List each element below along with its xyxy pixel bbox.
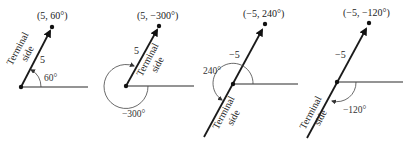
panel-4: (−5, −120°) −5 −120° Terminal side <box>297 7 403 138</box>
length-label: 5 <box>40 54 45 65</box>
point-label: (−5, −120°) <box>343 7 390 19</box>
panel-2: (5, −300°) 5 −300° Terminal side <box>104 10 194 119</box>
point-label: (5, 60°) <box>37 10 68 22</box>
length-label: 5 <box>134 45 139 56</box>
angle-label: 60° <box>44 73 58 83</box>
angle-label: 240° <box>203 66 221 76</box>
point-label: (5, −300°) <box>137 10 178 22</box>
origin-point <box>19 85 23 89</box>
terminal-side-label: Terminal side <box>4 30 40 72</box>
terminal-side-label: Terminal side <box>210 94 246 136</box>
polar-point <box>50 25 54 29</box>
panel-3: (−5, 240°) −5 240° Terminal side <box>203 8 298 137</box>
length-label: −5 <box>229 49 240 60</box>
polar-coordinates-diagram: (5, 60°) 5 60° Terminal side (5, −300°) … <box>0 0 403 143</box>
angle-label: −300° <box>122 109 146 119</box>
point-label: (−5, 240°) <box>243 8 284 20</box>
polar-point <box>157 24 161 28</box>
angle-label: −120° <box>343 105 367 115</box>
angle-arc <box>31 70 41 87</box>
panel-1: (5, 60°) 5 60° Terminal side <box>4 10 88 89</box>
origin-point <box>124 84 128 88</box>
polar-point <box>367 21 371 25</box>
origin-point <box>231 82 235 86</box>
length-label: −5 <box>335 49 346 60</box>
polar-point <box>263 22 267 26</box>
origin-point <box>335 80 339 84</box>
terminal-side-label: Terminal side <box>134 41 170 83</box>
